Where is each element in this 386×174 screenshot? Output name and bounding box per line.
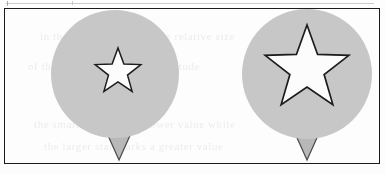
figure-graphic xyxy=(0,0,386,174)
figure-root: in the balloon diagram the relative size… xyxy=(0,0,386,174)
marker-left xyxy=(51,10,179,160)
marker-right xyxy=(242,9,372,160)
